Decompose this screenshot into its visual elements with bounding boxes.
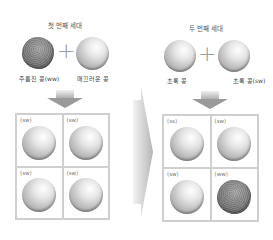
first-generation-grid: (sw) (sw) (sw) (sw) xyxy=(15,113,110,220)
down-arrow-icon xyxy=(47,90,83,108)
parent1-label: 주름진 콩(ww) xyxy=(8,74,70,83)
genotype-label: (sw) xyxy=(215,118,227,124)
parent1-label: 초록 콩 xyxy=(156,76,198,85)
smooth-pea-icon xyxy=(22,126,56,160)
smooth-pea-icon xyxy=(217,127,251,161)
genotype-label: (sw) xyxy=(67,170,79,176)
grid-cell: (sw) xyxy=(16,114,63,167)
second-generation-grid: (ss) (sw) (sw) (ww) xyxy=(162,114,259,222)
genotype-label: (sw) xyxy=(67,117,79,123)
first-generation-title: 첫 번째 세대 xyxy=(25,20,105,30)
grid-cell: (sw) xyxy=(163,168,211,221)
smooth-pea-icon xyxy=(22,178,56,212)
smooth-pea-icon xyxy=(170,180,204,214)
genotype-label: (sw) xyxy=(20,170,32,176)
smooth-pea-icon xyxy=(69,126,103,160)
right-arrow-icon xyxy=(133,87,153,217)
grid-cell: (sw) xyxy=(211,115,259,168)
wrinkled-pea-icon xyxy=(22,37,54,69)
genotype-label: (ww) xyxy=(215,171,228,177)
parent2-label: 초록 콩(sw) xyxy=(224,76,273,85)
parent2-label: 매끄러운 콩 xyxy=(64,74,122,83)
smooth-pea-icon xyxy=(164,40,196,72)
grid-cell: (sw) xyxy=(63,114,110,167)
grid-cell: (sw) xyxy=(63,167,110,220)
plus-icon: + xyxy=(198,43,216,65)
plus-icon: + xyxy=(57,40,75,62)
smooth-pea-icon xyxy=(69,178,103,212)
smooth-pea-icon xyxy=(170,127,204,161)
down-arrow-icon xyxy=(192,91,228,109)
genotype-label: (sw) xyxy=(167,171,179,177)
genotype-label: (ss) xyxy=(167,118,177,124)
genotype-label: (sw) xyxy=(20,117,32,123)
grid-cell: (ss) xyxy=(163,115,211,168)
wrinkled-pea-icon xyxy=(217,180,251,214)
grid-cell: (ww) xyxy=(211,168,259,221)
smooth-pea-icon xyxy=(76,37,109,70)
smooth-pea-icon xyxy=(218,40,250,72)
second-generation-title: 두 번째 세대 xyxy=(166,23,246,33)
grid-cell: (sw) xyxy=(16,167,63,220)
